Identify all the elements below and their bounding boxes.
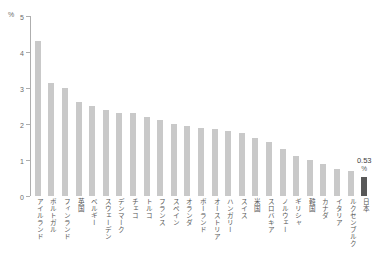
bar-slot bbox=[167, 16, 181, 196]
x-label-slot: チェコ bbox=[126, 198, 140, 266]
x-category-label: ギリシャ bbox=[292, 198, 300, 226]
bar-slot bbox=[181, 16, 195, 196]
x-category-label: ポルトガル bbox=[47, 198, 55, 233]
bar bbox=[62, 88, 68, 196]
x-label-slot: アイルランド bbox=[31, 198, 45, 266]
x-axis-category-labels: アイルランドポルトガルフィンランド英国ベルギースウェーデンデンマークチェコトルコ… bbox=[31, 198, 371, 266]
y-tick-mark bbox=[26, 196, 30, 197]
x-label-slot: 英国 bbox=[72, 198, 86, 266]
bar-slot bbox=[344, 16, 358, 196]
bar-chart: % 012345 0.53% アイルランドポルトガルフィンランド英国ベルギースウ… bbox=[0, 0, 374, 268]
y-tick-mark bbox=[26, 16, 30, 17]
y-tick-label: 0 bbox=[20, 193, 24, 200]
bar bbox=[266, 142, 272, 196]
bar-slot bbox=[31, 16, 45, 196]
y-tick-mark bbox=[26, 160, 30, 161]
x-category-label: イタリア bbox=[333, 198, 341, 226]
x-label-slot: イタリア bbox=[330, 198, 344, 266]
y-tick-label: 4 bbox=[20, 49, 24, 56]
bar bbox=[252, 138, 258, 196]
x-category-label: スペイン bbox=[170, 198, 178, 226]
annotation-value: 0.53 bbox=[357, 156, 372, 165]
bar-slot bbox=[208, 16, 222, 196]
x-label-slot: ルクセンブルク bbox=[344, 198, 358, 266]
bar bbox=[239, 133, 245, 196]
y-tick: 0 bbox=[30, 196, 34, 197]
x-label-slot: ノルウェー bbox=[276, 198, 290, 266]
bars-layer: 0.53% bbox=[31, 16, 370, 196]
y-tick-label: 5 bbox=[20, 13, 24, 20]
bar bbox=[144, 117, 150, 196]
x-label-slot: フィンランド bbox=[58, 198, 72, 266]
x-category-label: フィンランド bbox=[61, 198, 69, 240]
y-tick-label: 1 bbox=[20, 157, 24, 164]
y-tick-mark bbox=[26, 88, 30, 89]
x-label-slot: ギリシャ bbox=[289, 198, 303, 266]
x-category-label: ベルギー bbox=[88, 198, 96, 226]
x-category-label: オランダ bbox=[183, 198, 191, 226]
bar-slot bbox=[140, 16, 154, 196]
x-category-label: カナダ bbox=[319, 198, 327, 219]
x-label-slot: カナダ bbox=[317, 198, 331, 266]
x-category-label: 日本 bbox=[360, 198, 368, 212]
x-label-slot: スペイン bbox=[167, 198, 181, 266]
annotation-unit: % bbox=[357, 165, 372, 172]
bar bbox=[89, 106, 95, 196]
x-category-label: ノルウェー bbox=[279, 198, 287, 233]
bar-slot bbox=[126, 16, 140, 196]
bar bbox=[348, 171, 354, 196]
x-label-slot: ベルギー bbox=[85, 198, 99, 266]
bar-slot bbox=[45, 16, 59, 196]
y-tick-mark bbox=[26, 52, 30, 53]
x-category-label: ルクセンブルク bbox=[347, 198, 355, 247]
x-category-label: ポーランド bbox=[197, 198, 205, 233]
x-category-label: ハンガリー bbox=[224, 198, 232, 233]
bar bbox=[103, 110, 109, 196]
x-category-label: 米国 bbox=[251, 198, 259, 212]
bar-slot bbox=[262, 16, 276, 196]
bar-slot bbox=[194, 16, 208, 196]
y-tick-label: 3 bbox=[20, 85, 24, 92]
bar bbox=[130, 113, 136, 196]
x-category-label: スイス bbox=[238, 198, 246, 219]
bar-slot bbox=[303, 16, 317, 196]
x-category-label: オーストリア bbox=[211, 198, 219, 240]
x-label-slot: デンマーク bbox=[113, 198, 127, 266]
y-tick-mark bbox=[26, 124, 30, 125]
y-axis-unit-label: % bbox=[8, 11, 14, 18]
x-category-label: スロバキア bbox=[265, 198, 273, 233]
bar bbox=[198, 128, 204, 196]
bar-slot bbox=[330, 16, 344, 196]
x-label-slot: スロバキア bbox=[262, 198, 276, 266]
bar bbox=[35, 41, 41, 196]
plot-area: 012345 0.53% bbox=[30, 16, 370, 196]
bar-slot bbox=[153, 16, 167, 196]
x-category-label: デンマーク bbox=[115, 198, 123, 233]
x-category-label: スウェーデン bbox=[102, 198, 110, 240]
x-label-slot: 米国 bbox=[249, 198, 263, 266]
x-label-slot: 日本 bbox=[357, 198, 371, 266]
bar-slot bbox=[72, 16, 86, 196]
bar-slot bbox=[99, 16, 113, 196]
x-label-slot: オーストリア bbox=[208, 198, 222, 266]
bar bbox=[320, 164, 326, 196]
bar bbox=[293, 156, 299, 196]
bar bbox=[184, 126, 190, 196]
bar-slot bbox=[113, 16, 127, 196]
x-category-label: トルコ bbox=[143, 198, 151, 219]
bar bbox=[116, 113, 122, 196]
x-category-label: アイルランド bbox=[34, 198, 42, 240]
x-category-label: フランス bbox=[156, 198, 164, 226]
x-label-slot: ハンガリー bbox=[221, 198, 235, 266]
x-label-slot: オランダ bbox=[181, 198, 195, 266]
bar bbox=[334, 169, 340, 196]
bar-slot bbox=[317, 16, 331, 196]
bar-value-annotation: 0.53% bbox=[357, 157, 372, 173]
bar bbox=[76, 102, 82, 196]
x-label-slot: ポーランド bbox=[194, 198, 208, 266]
x-label-slot: スイス bbox=[235, 198, 249, 266]
x-category-label: 韓国 bbox=[306, 198, 314, 212]
x-category-label: 英国 bbox=[75, 198, 83, 212]
x-label-slot: フランス bbox=[153, 198, 167, 266]
bar bbox=[48, 83, 54, 196]
